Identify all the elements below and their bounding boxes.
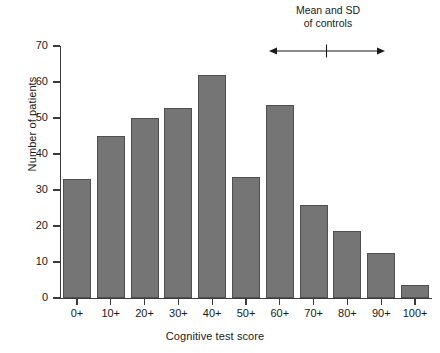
x-tick-90+ [381, 299, 382, 305]
y-tick-label-60: 60 [8, 76, 48, 87]
x-tick-30+ [178, 299, 179, 305]
x-axis-title: Cognitive test score [60, 330, 370, 342]
bar-100+ [401, 285, 429, 298]
y-axis-line [60, 46, 61, 299]
x-tick-0+ [76, 299, 77, 305]
x-tick-label-100+: 100+ [395, 308, 435, 319]
bar-0+ [63, 179, 91, 298]
x-tick-80+ [347, 299, 348, 305]
y-tick-label-40: 40 [8, 148, 48, 159]
x-tick-20+ [144, 299, 145, 305]
x-tick-100+ [414, 299, 415, 305]
bar-40+ [198, 75, 226, 298]
y-tick-20 [53, 225, 60, 226]
bar-20+ [131, 118, 159, 298]
y-tick-0 [53, 297, 60, 298]
bar-60+ [266, 105, 294, 298]
bar-10+ [97, 136, 125, 298]
y-tick-50 [53, 117, 60, 118]
y-tick-label-30: 30 [8, 184, 48, 195]
bar-30+ [164, 108, 192, 298]
mean-sd-annotation-line2: of controls [272, 17, 384, 30]
bar-80+ [333, 231, 361, 298]
x-tick-40+ [212, 299, 213, 305]
y-tick-70 [53, 45, 60, 46]
y-tick-label-50: 50 [8, 112, 48, 123]
y-tick-40 [53, 153, 60, 154]
histogram-figure: Number of patients 010203040506070 0+10+… [0, 0, 440, 353]
x-tick-10+ [110, 299, 111, 305]
y-tick-label-20: 20 [8, 220, 48, 231]
mean-sd-annotation-line1: Mean and SD [272, 4, 384, 17]
y-tick-label-10: 10 [8, 256, 48, 267]
x-tick-60+ [279, 299, 280, 305]
mean-sd-range-arrow-icon [268, 42, 386, 60]
y-tick-label-70: 70 [8, 40, 48, 51]
bar-90+ [367, 253, 395, 298]
y-tick-30 [53, 189, 60, 190]
y-axis-title: Number of patients [26, 44, 38, 204]
y-tick-60 [53, 81, 60, 82]
bar-70+ [300, 205, 328, 298]
x-tick-70+ [313, 299, 314, 305]
y-tick-10 [53, 261, 60, 262]
y-tick-label-0: 0 [8, 292, 48, 303]
x-tick-50+ [245, 299, 246, 305]
mean-sd-annotation-label: Mean and SD of controls [272, 4, 384, 30]
bar-50+ [232, 177, 260, 298]
